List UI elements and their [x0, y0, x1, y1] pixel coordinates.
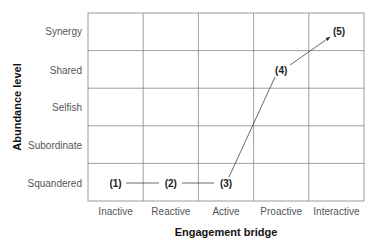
- point-4: (4): [275, 65, 287, 76]
- point-5: (5): [333, 26, 345, 37]
- y-axis-ticks: Synergy Shared Selfish Subordinate Squan…: [28, 26, 83, 189]
- point-2: (2): [165, 178, 177, 189]
- y-tick-synergy: Synergy: [45, 26, 82, 37]
- x-tick-proactive: Proactive: [260, 206, 302, 217]
- y-tick-shared: Shared: [50, 65, 82, 76]
- y-tick-subordinate: Subordinate: [28, 140, 82, 151]
- vertical-gridlines: [143, 13, 309, 201]
- horizontal-gridlines: [88, 51, 364, 164]
- arrow-icon: [290, 37, 330, 65]
- point-3: (3): [220, 178, 232, 189]
- x-tick-reactive: Reactive: [151, 206, 190, 217]
- x-tick-inactive: Inactive: [98, 206, 133, 217]
- y-tick-selfish: Selfish: [52, 102, 82, 113]
- point-1: (1): [109, 178, 121, 189]
- matrix-diagram: Synergy Shared Selfish Subordinate Squan…: [0, 0, 380, 240]
- y-tick-squandered: Squandered: [28, 178, 83, 189]
- x-tick-interactive: Interactive: [313, 206, 360, 217]
- progression-path: [126, 37, 330, 183]
- x-axis-ticks: Inactive Reactive Active Proactive Inter…: [98, 206, 360, 217]
- y-axis-title: Abundance level: [11, 63, 23, 150]
- x-tick-active: Active: [212, 206, 240, 217]
- x-axis-title: Engagement bridge: [175, 226, 278, 238]
- plot-frame: [88, 13, 364, 201]
